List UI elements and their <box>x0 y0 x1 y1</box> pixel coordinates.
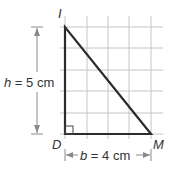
height-value: = 5 cm <box>11 75 54 90</box>
grid <box>60 16 163 139</box>
base-value: = 4 cm <box>87 148 130 163</box>
base-label: b = 4 cm <box>80 148 130 163</box>
base-variable: b <box>80 148 87 163</box>
height-variable: h <box>4 75 11 90</box>
right-triangle-diagram: h = 5 cm b = 4 cm I D M <box>0 0 175 172</box>
vertex-label-i: I <box>58 6 62 21</box>
height-label: h = 5 cm <box>4 75 54 90</box>
vertex-label-m: M <box>153 137 164 152</box>
right-angle-marker <box>65 126 73 134</box>
vertex-label-d: D <box>52 137 61 152</box>
